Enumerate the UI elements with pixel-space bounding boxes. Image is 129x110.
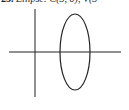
- ellipse-graph: [0, 0, 129, 110]
